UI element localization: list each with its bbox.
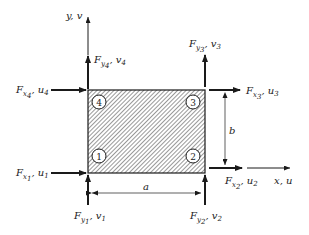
dimension-b-label: b bbox=[229, 125, 235, 136]
node-3: 3 bbox=[186, 95, 200, 109]
fy3-label: Fy3, v3 bbox=[188, 38, 221, 54]
node-2-label: 2 bbox=[190, 152, 196, 162]
force-fy4: Fy4, v4 bbox=[88, 54, 126, 89]
fx1-label: Fx1, u1 bbox=[15, 167, 49, 183]
force-fx2: Fx2, u2 bbox=[209, 168, 258, 191]
fx2-label: Fx2, u2 bbox=[224, 175, 258, 191]
node-3-label: 3 bbox=[190, 98, 196, 108]
fy2-label: Fy2, v2 bbox=[189, 210, 222, 226]
dimension-a: a bbox=[92, 181, 201, 196]
force-fy3: Fy3, v3 bbox=[188, 38, 221, 87]
force-fy2: Fy2, v2 bbox=[189, 175, 222, 226]
dimension-a-label: a bbox=[143, 181, 149, 192]
force-fx1: Fx1, u1 bbox=[15, 167, 86, 183]
node-1: 1 bbox=[92, 149, 106, 163]
force-fx4: Fx4, u4 bbox=[15, 84, 86, 100]
element-diagram: 4 3 1 2 y, v Fy4, v4 Fx4, u4 Fy3, v3 Fx3… bbox=[0, 0, 309, 235]
x-axis-label: x, u bbox=[274, 175, 292, 186]
force-fy1: Fy1, v1 bbox=[73, 175, 106, 226]
node-4-label: 4 bbox=[96, 98, 102, 108]
node-1-label: 1 bbox=[96, 152, 102, 162]
node-2: 2 bbox=[186, 149, 200, 163]
y-axis: y, v bbox=[65, 10, 88, 55]
force-fx3: Fx3, u3 bbox=[209, 85, 279, 101]
fy4-label: Fy4, v4 bbox=[93, 54, 126, 70]
fy1-label: Fy1, v1 bbox=[73, 210, 106, 226]
dimension-b: b bbox=[223, 92, 236, 165]
fx3-label: Fx3, u3 bbox=[245, 85, 279, 101]
node-4: 4 bbox=[92, 95, 106, 109]
y-axis-label: y, v bbox=[65, 10, 83, 21]
fx4-label: Fx4, u4 bbox=[15, 84, 49, 100]
